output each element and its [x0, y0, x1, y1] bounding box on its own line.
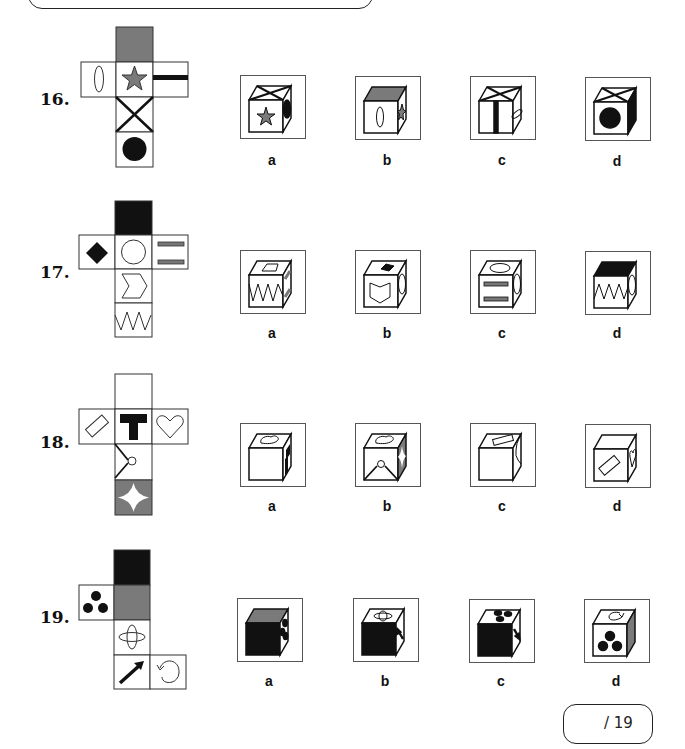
q17-option-d[interactable] — [585, 251, 651, 315]
q19-option-d[interactable] — [584, 599, 650, 663]
question-17-number: 17. — [40, 262, 70, 282]
q17-option-b[interactable] — [355, 250, 421, 314]
q17-label-a: a — [262, 325, 282, 341]
q18-label-b: b — [377, 498, 397, 514]
q16-label-c: c — [492, 152, 512, 168]
q19-label-a: a — [259, 673, 279, 689]
q17-option-c[interactable] — [470, 250, 536, 314]
q19-option-b[interactable] — [353, 598, 419, 662]
q17-label-d: d — [607, 325, 627, 341]
q18-option-b[interactable] — [355, 423, 421, 487]
q16-label-b: b — [377, 152, 397, 168]
q18-label-a: a — [262, 498, 282, 514]
question-16-net — [80, 26, 190, 176]
q16-option-a[interactable] — [240, 75, 306, 139]
q17-option-a[interactable] — [240, 250, 306, 314]
question-18-net — [78, 373, 190, 518]
score-text: / 19 — [604, 714, 633, 732]
question-17-net — [78, 200, 190, 342]
q16-label-d: d — [607, 153, 627, 169]
q18-option-c[interactable] — [470, 423, 536, 487]
q17-label-b: b — [377, 325, 397, 341]
q18-option-d[interactable] — [585, 424, 651, 488]
q18-label-d: d — [607, 498, 627, 514]
q18-option-a[interactable] — [240, 423, 306, 487]
q19-label-b: b — [375, 673, 395, 689]
question-18-number: 18. — [40, 432, 70, 452]
q16-option-d[interactable] — [585, 77, 651, 141]
score-box: / 19 — [563, 704, 653, 744]
q16-option-c[interactable] — [470, 76, 536, 140]
q19-label-d: d — [606, 673, 626, 689]
q18-label-c: c — [492, 498, 512, 514]
q19-option-c[interactable] — [469, 599, 535, 663]
q16-label-a: a — [262, 152, 282, 168]
question-16-number: 16. — [40, 89, 70, 109]
q17-label-c: c — [492, 325, 512, 341]
question-19-number: 19. — [40, 607, 70, 627]
question-19-net — [78, 549, 190, 691]
q19-label-c: c — [491, 673, 511, 689]
q19-option-a[interactable] — [237, 598, 303, 662]
q16-option-b[interactable] — [355, 76, 421, 140]
header-box — [28, 0, 373, 9]
